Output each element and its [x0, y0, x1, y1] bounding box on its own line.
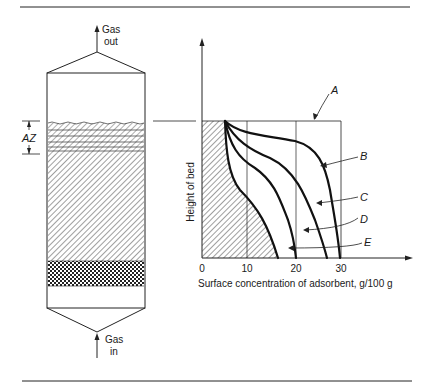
arrowhead-icon: [288, 245, 294, 251]
top-cone: [47, 52, 145, 73]
x-tick-0: 0: [199, 263, 205, 274]
arrow-right-icon: [405, 256, 413, 261]
x-tick-20: 20: [290, 263, 302, 274]
x-axis-label: Surface concentration of adsorbent, g/10…: [198, 278, 393, 289]
x-tick-10: 10: [241, 263, 253, 274]
arrow-up-icon: [200, 38, 205, 46]
leader-c: [318, 197, 358, 203]
bottom-cone: [47, 308, 145, 332]
gas-in-label-2: in: [110, 346, 118, 357]
leader-e: [290, 243, 362, 248]
curve-label-d: D: [360, 213, 368, 225]
gas-out-label-2: out: [104, 36, 118, 47]
curve-label-a: A: [330, 84, 338, 96]
arrowhead-icon: [303, 227, 309, 233]
arrowhead-icon: [316, 200, 322, 206]
arrow-up-icon: [27, 121, 31, 127]
curve-label-e: E: [364, 236, 372, 248]
adsorption-column: Gas out AZ G: [21, 24, 145, 358]
az-label: AZ: [21, 132, 37, 144]
curve-label-b: B: [360, 150, 367, 162]
curve-label-c: C: [360, 191, 368, 203]
arrow-down-icon: [27, 148, 31, 154]
y-axis-label: Height of bed: [185, 162, 196, 222]
gas-out-label-1: Gas: [102, 24, 120, 35]
adsorption-figure: Gas out AZ G: [0, 0, 431, 383]
leader-d: [305, 218, 358, 230]
adsorption-zone: [48, 123, 144, 154]
x-tick-30: 30: [335, 263, 347, 274]
gas-in-label-1: Gas: [105, 334, 123, 345]
arrow-up-icon: [95, 333, 100, 340]
arrow-up-icon: [95, 25, 100, 32]
leader-b: [322, 157, 358, 166]
support-layer: [48, 261, 144, 286]
saturated-bed: [48, 154, 144, 261]
concentration-chart: A B C D E 0 10 20 30 Surface concentrati…: [185, 38, 413, 289]
